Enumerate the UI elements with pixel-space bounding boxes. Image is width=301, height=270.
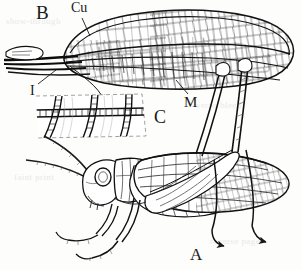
- label-vein-m: M: [184, 95, 197, 110]
- antenna: [26, 136, 90, 178]
- figure-plate: show-through verso bleed faint print rev…: [0, 0, 301, 270]
- wing-venation-detail: [36, 94, 146, 138]
- label-panel-a: A: [190, 246, 202, 263]
- fore-leg: [56, 204, 118, 245]
- label-vein-cu: Cu: [71, 1, 87, 15]
- illustration-canvas: [0, 0, 301, 270]
- label-vein-i: I: [30, 84, 35, 98]
- label-panel-c: C: [154, 108, 166, 126]
- label-panel-b: B: [36, 3, 49, 22]
- hind-tarsus: [252, 226, 266, 242]
- leader-line-i: [38, 70, 56, 84]
